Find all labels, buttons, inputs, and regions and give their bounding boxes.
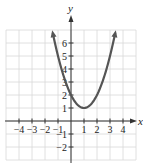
parabola-graph: −4−3−2−11234 −2−1123456 x y xyxy=(0,0,143,168)
y-tick-label: −2 xyxy=(56,142,67,153)
y-axis-label: y xyxy=(67,2,73,14)
x-tick-label: −4 xyxy=(14,124,25,135)
y-tick-label: 2 xyxy=(62,90,67,101)
x-tick-label: 3 xyxy=(108,124,113,135)
x-tick-label: −2 xyxy=(40,124,51,135)
x-axis-label: x xyxy=(137,115,143,127)
x-tick-label: 4 xyxy=(121,124,126,135)
x-tick-label: 2 xyxy=(95,124,100,135)
y-tick-label: −1 xyxy=(56,129,67,140)
x-tick-label: 1 xyxy=(82,124,87,135)
x-tick-label: −3 xyxy=(27,124,38,135)
y-tick-label: 1 xyxy=(62,103,67,114)
y-tick-label: 5 xyxy=(62,51,67,62)
x-tick-labels: −4−3−2−11234 xyxy=(14,124,126,135)
y-tick-label: 6 xyxy=(62,38,67,49)
